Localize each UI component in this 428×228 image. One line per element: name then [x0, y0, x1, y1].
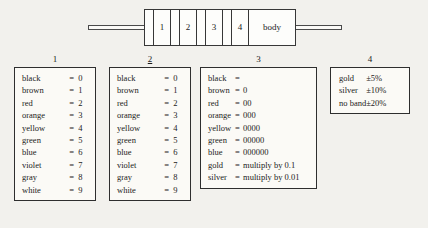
color-name: silver [339, 84, 366, 96]
legend-table-2-box: black=0 brown=1 red=2 orange=3 yellow=4 … [109, 67, 191, 201]
table-row: brown=1 [117, 84, 183, 96]
resistor-band-2: 2 [180, 10, 197, 45]
color-name: white [22, 184, 69, 196]
color-name: blue [208, 146, 235, 158]
equals-sign: = [235, 72, 243, 84]
table-row: black= [208, 72, 309, 84]
resistor-lead-right [292, 25, 342, 30]
tolerance-value: ±10% [366, 84, 386, 96]
color-name: orange [117, 109, 164, 121]
color-name: green [208, 134, 235, 146]
color-name: brown [208, 84, 235, 96]
color-name: yellow [22, 122, 69, 134]
color-name: violet [117, 159, 164, 171]
tolerance-value: ±20% [366, 97, 386, 109]
table-row: gray=8 [22, 171, 88, 183]
multiplier-value [243, 72, 309, 84]
legend-table-1-caption: 1 [14, 54, 96, 65]
color-name: green [117, 134, 164, 146]
color-name: gray [22, 171, 69, 183]
multiplier-value: 000000 [243, 146, 309, 158]
color-name: orange [22, 109, 69, 121]
equals-sign: = [235, 122, 243, 134]
table-row: white=9 [117, 184, 183, 196]
resistor-band-gap-2 [197, 10, 206, 45]
equals-sign: = [69, 146, 77, 158]
legend-table-1-box: black=0 brown=1 red=2 orange=3 yellow=4 … [14, 67, 96, 201]
resistor-diagram: 1 2 3 4 body [0, 0, 428, 52]
resistor-band-gap-left [145, 10, 154, 45]
digit-value: 0 [77, 72, 88, 84]
color-name: violet [22, 159, 69, 171]
resistor-band-1: 1 [154, 10, 171, 45]
multiplier-value: multiply by 0.01 [243, 171, 309, 183]
digit-value: 8 [172, 171, 183, 183]
digit-value: 4 [77, 122, 88, 134]
equals-sign: = [69, 171, 77, 183]
resistor-lead-left [88, 25, 150, 30]
legend-table-3: 3 black= brown=0 red=00 orange=000 yello… [200, 54, 317, 189]
equals-sign: = [164, 97, 172, 109]
table-row: red=00 [208, 97, 309, 109]
digit-value: 6 [77, 146, 88, 158]
digit-value: 9 [172, 184, 183, 196]
color-name: gold [208, 159, 235, 171]
equals-sign: = [164, 184, 172, 196]
equals-sign: = [164, 72, 172, 84]
table-row: gray=8 [117, 171, 183, 183]
equals-sign: = [69, 184, 77, 196]
color-name: silver [208, 171, 235, 183]
legend-table-4-grid: gold±5% silver±10% no band±20% [339, 72, 386, 109]
resistor-body: 1 2 3 4 body [144, 9, 296, 46]
color-name: yellow [208, 122, 235, 134]
legend-table-3-caption: 3 [200, 54, 317, 65]
table-row: green=00000 [208, 134, 309, 146]
digit-value: 4 [172, 122, 183, 134]
legend-table-2: 2 black=0 brown=1 red=2 orange=3 yellow=… [109, 54, 191, 201]
table-row: brown=0 [208, 84, 309, 96]
table-row: violet=7 [22, 159, 88, 171]
resistor-band-gap-3 [223, 10, 232, 45]
legend-table-4-box: gold±5% silver±10% no band±20% [330, 67, 410, 114]
table-row: red=2 [117, 97, 183, 109]
color-name: red [117, 97, 164, 109]
equals-sign: = [164, 84, 172, 96]
resistor-body-label: body [249, 10, 295, 45]
multiplier-value: 0000 [243, 122, 309, 134]
digit-value: 9 [77, 184, 88, 196]
color-name: gray [117, 171, 164, 183]
page-root: 1 2 3 4 body 1 black=0 brown=1 red=2 ora… [0, 0, 428, 228]
color-name: black [117, 72, 164, 84]
digit-value: 5 [172, 134, 183, 146]
multiplier-value: multiply by 0.1 [243, 159, 309, 171]
equals-sign: = [164, 122, 172, 134]
legend-table-4-caption: 4 [330, 54, 410, 65]
table-row: green=5 [117, 134, 183, 146]
table-row: gold±5% [339, 72, 386, 84]
equals-sign: = [69, 159, 77, 171]
equals-sign: = [235, 146, 243, 158]
digit-value: 7 [77, 159, 88, 171]
table-row: black=0 [117, 72, 183, 84]
table-row: orange=3 [117, 109, 183, 121]
color-name: red [208, 97, 235, 109]
table-row: violet=7 [117, 159, 183, 171]
digit-value: 6 [172, 146, 183, 158]
color-name: green [22, 134, 69, 146]
equals-sign: = [69, 109, 77, 121]
digit-value: 2 [77, 97, 88, 109]
equals-sign: = [69, 97, 77, 109]
legend-table-3-grid: black= brown=0 red=00 orange=000 yellow=… [208, 72, 309, 184]
equals-sign: = [235, 171, 243, 183]
table-row: black=0 [22, 72, 88, 84]
color-name: white [117, 184, 164, 196]
equals-sign: = [164, 146, 172, 158]
equals-sign: = [235, 84, 243, 96]
color-name: blue [22, 146, 69, 158]
digit-value: 3 [77, 109, 88, 121]
table-row: blue=6 [117, 146, 183, 158]
table-row: orange=000 [208, 109, 309, 121]
color-name: gold [339, 72, 366, 84]
color-name: brown [22, 84, 69, 96]
tolerance-value: ±5% [366, 72, 386, 84]
